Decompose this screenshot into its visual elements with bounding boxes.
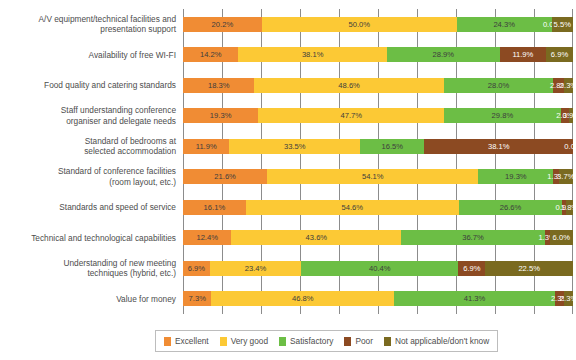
- bar-segment: 21.6%: [183, 169, 267, 184]
- stacked-bar: 21.6%54.1%19.3%1.3%3.7%: [183, 169, 573, 184]
- bar-segment-value: 2.3%: [560, 81, 576, 90]
- bar-segment: 20.2%: [183, 17, 262, 32]
- bar-segment-value: 6.9%: [463, 264, 480, 273]
- stacked-bar: 18.3%48.6%28.0%2.8%2.3%: [183, 78, 573, 93]
- bar-segment-value: 40.4%: [369, 264, 391, 273]
- bar-segment-value: 23.4%: [245, 264, 267, 273]
- category-label: Food quality and catering standards: [0, 80, 180, 90]
- bar-segment: 50.0%: [262, 17, 457, 32]
- bar-segment-value: 21.6%: [214, 172, 236, 181]
- bar-segment: 1.8%: [566, 200, 573, 215]
- bar-segment: 19.3%: [478, 169, 553, 184]
- bar-segment-value: 3.7%: [557, 172, 574, 181]
- table-row: 18.3%48.6%28.0%2.8%2.3%: [183, 70, 573, 101]
- legend-swatch-icon: [384, 337, 391, 346]
- table-row: 20.2%50.0%24.3%0.0%5.5%: [183, 9, 573, 40]
- table-row: 7.3%46.8%41.3%2.3%2.3%: [183, 284, 573, 315]
- bar-segment: 23.4%: [210, 261, 301, 276]
- bar-segment-value: 12.4%: [196, 233, 218, 242]
- category-label-row: Staff understanding conference organiser…: [0, 101, 180, 132]
- bar-segment: 11.9%: [183, 139, 229, 154]
- bar-segment: 22.5%: [485, 261, 573, 276]
- bar-segment-value: 54.1%: [362, 172, 384, 181]
- bar-segment-value: 47.7%: [341, 111, 363, 120]
- legend-swatch-icon: [164, 337, 171, 346]
- bar-segment: 12.4%: [183, 230, 231, 245]
- legend-label: Not applicable/don't know: [395, 336, 489, 346]
- stacked-bar: 14.2%38.1%28.9%11.9%6.9%: [183, 47, 573, 62]
- category-label: A/V equipment/technical facilities and p…: [0, 14, 180, 35]
- bar-segment-value: 5.5%: [554, 20, 571, 29]
- bar-segment: 46.8%: [211, 291, 394, 306]
- bar-segment: 24.3%: [457, 17, 552, 32]
- category-label: Technical and technological capabilities: [0, 233, 180, 243]
- bar-segment: 0.9%: [569, 108, 573, 123]
- table-row: 11.9%33.5%16.5%38.1%0.0%: [183, 131, 573, 162]
- bar-segment: 28.9%: [387, 47, 500, 62]
- bar-segment-value: 0.0%: [564, 142, 576, 151]
- bar-segment-value: 0.9%: [563, 111, 576, 120]
- bar-segment-value: 46.8%: [292, 294, 314, 303]
- bar-segment: 3.7%: [559, 169, 573, 184]
- bar-segment: 41.3%: [394, 291, 555, 306]
- legend-label: Satisfactory: [290, 336, 333, 346]
- bar-segment-value: 6.0%: [553, 233, 570, 242]
- category-label-row: A/V equipment/technical facilities and p…: [0, 9, 180, 40]
- bar-segment: 2.3%: [564, 291, 573, 306]
- stacked-bar-chart: A/V equipment/technical facilities and p…: [0, 0, 576, 360]
- category-label: Standard of bedrooms at selected accommo…: [0, 136, 180, 157]
- table-row: 16.1%54.6%26.6%0.9%1.8%: [183, 192, 573, 223]
- bar-segment: 43.6%: [231, 230, 401, 245]
- stacked-bar: 16.1%54.6%26.6%0.9%1.8%: [183, 200, 573, 215]
- bar-segment-value: 26.6%: [500, 203, 522, 212]
- bar-segment: 29.8%: [444, 108, 560, 123]
- category-label-row: Value for money: [0, 284, 180, 315]
- stacked-bar: 20.2%50.0%24.3%0.0%5.5%: [183, 17, 573, 32]
- bar-segment-value: 20.2%: [212, 20, 234, 29]
- category-label-row: Standard of conference facilities (room …: [0, 162, 180, 193]
- bar-segment-value: 41.3%: [464, 294, 486, 303]
- bar-segment-value: 1.8%: [561, 203, 576, 212]
- bar-segment: 47.7%: [258, 108, 444, 123]
- bar-segment: 6.9%: [183, 261, 210, 276]
- category-labels-column: A/V equipment/technical facilities and p…: [0, 9, 180, 314]
- bar-segment: 36.7%: [401, 230, 544, 245]
- stacked-bar: 11.9%33.5%16.5%38.1%0.0%: [183, 139, 573, 154]
- bar-segment: 54.6%: [246, 200, 459, 215]
- category-label: Value for money: [0, 294, 180, 304]
- bar-segment: 19.3%: [183, 108, 258, 123]
- category-label-row: Understanding of new meeting techniques …: [0, 253, 180, 284]
- category-label-row: Availability of free WI-FI: [0, 40, 180, 71]
- bar-segment-value: 7.3%: [189, 294, 206, 303]
- table-row: 19.3%47.7%29.8%2.3%0.9%: [183, 101, 573, 132]
- legend-item: Poor: [344, 336, 373, 346]
- bars-column: 20.2%50.0%24.3%0.0%5.5%14.2%38.1%28.9%11…: [183, 9, 573, 314]
- bar-segment-value: 28.9%: [433, 50, 455, 59]
- bar-segment-value: 29.8%: [492, 111, 514, 120]
- category-label: Standard of conference facilities (room …: [0, 166, 180, 187]
- bar-segment-value: 28.0%: [488, 81, 510, 90]
- bar-segment: 40.4%: [301, 261, 458, 276]
- bar-segment: 38.1%: [238, 47, 387, 62]
- table-row: 6.9%23.4%40.4%6.9%22.5%: [183, 253, 573, 284]
- bar-segment: 48.6%: [254, 78, 444, 93]
- category-label-row: Technical and technological capabilities: [0, 223, 180, 254]
- table-row: 12.4%43.6%36.7%1.3%6.0%: [183, 223, 573, 254]
- bar-segment-value: 16.5%: [381, 142, 403, 151]
- legend-label: Excellent: [175, 336, 209, 346]
- category-label-row: Standard of bedrooms at selected accommo…: [0, 131, 180, 162]
- category-label: Standards and speed of service: [0, 202, 180, 212]
- bar-segment-value: 24.3%: [493, 20, 515, 29]
- legend-label: Very good: [231, 336, 268, 346]
- stacked-bar: 6.9%23.4%40.4%6.9%22.5%: [183, 261, 573, 276]
- legend-item: Satisfactory: [279, 336, 333, 346]
- stacked-bar: 19.3%47.7%29.8%2.3%0.9%: [183, 108, 573, 123]
- bar-segment-value: 43.6%: [306, 233, 328, 242]
- bar-segment: 7.3%: [183, 291, 211, 306]
- bar-segment-value: 18.3%: [208, 81, 230, 90]
- bar-segment-value: 11.9%: [512, 50, 533, 59]
- legend-item: Excellent: [164, 336, 209, 346]
- bar-segment-value: 22.5%: [518, 264, 540, 273]
- bar-segment: 16.5%: [360, 139, 424, 154]
- category-label: Understanding of new meeting techniques …: [0, 258, 180, 279]
